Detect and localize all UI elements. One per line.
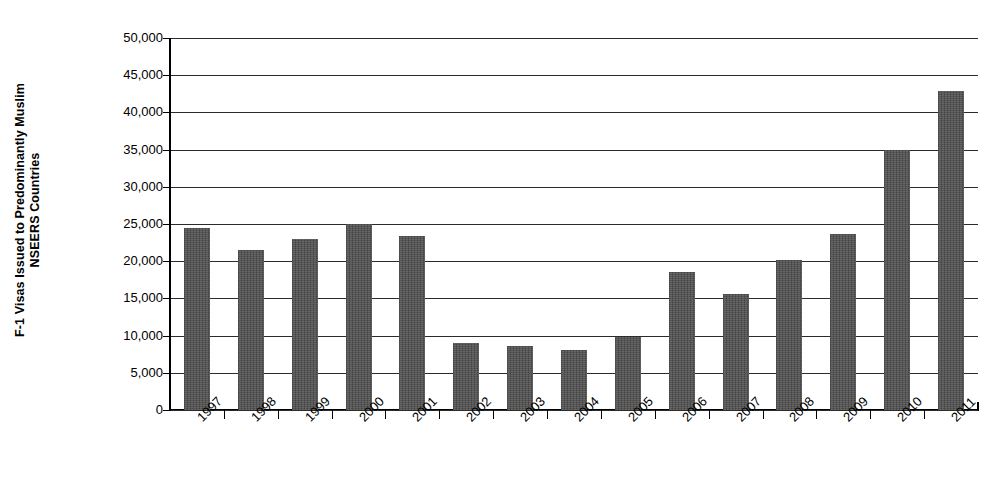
y-axis-title-line1: F-1 Visas Issued to Predominantly Muslim	[13, 83, 27, 337]
y-axis-tick-label: 20,000	[97, 254, 163, 267]
y-axis-tick-label: 50,000	[97, 31, 163, 44]
bar	[615, 337, 641, 410]
y-axis-tick-label: 0	[97, 403, 163, 416]
bar	[938, 91, 964, 410]
y-axis-tick-label: 30,000	[97, 180, 163, 193]
y-axis-tick	[163, 298, 171, 299]
y-axis-tick	[163, 150, 171, 151]
y-axis-tick	[163, 224, 171, 225]
bar	[184, 228, 210, 410]
y-axis-title-line2: NSEERS Countries	[28, 83, 43, 337]
bar	[238, 250, 264, 410]
y-axis-tick	[163, 112, 171, 113]
bar	[346, 224, 372, 410]
y-axis-tick	[163, 261, 171, 262]
x-axis-tick-labels: 1997199819992000200120022003200420052006…	[170, 414, 978, 482]
bar	[669, 272, 695, 410]
y-axis-tick-label: 10,000	[97, 329, 163, 342]
bar	[399, 236, 425, 410]
y-axis-tick-labels: 50,00045,00040,00035,00030,00025,00020,0…	[95, 38, 163, 410]
y-axis-tick-label: 45,000	[97, 68, 163, 81]
y-axis-tick	[163, 410, 171, 411]
gridline	[170, 38, 978, 39]
y-axis-tick-label: 40,000	[97, 105, 163, 118]
bar	[830, 234, 856, 410]
y-axis-title: F-1 Visas Issued to Predominantly Muslim…	[0, 0, 56, 420]
y-axis-tick-label: 15,000	[97, 291, 163, 304]
plot-area	[170, 38, 978, 410]
gridline	[170, 75, 978, 76]
y-axis-tick-label: 25,000	[97, 217, 163, 230]
y-axis-tick	[163, 187, 171, 188]
bar	[723, 294, 749, 410]
bar-chart: F-1 Visas Issued to Predominantly Muslim…	[0, 0, 1005, 482]
gridline	[170, 187, 978, 188]
gridline	[170, 224, 978, 225]
y-axis-tick	[163, 336, 171, 337]
y-axis-tick-label: 5,000	[97, 366, 163, 379]
y-axis-tick	[163, 38, 171, 39]
bar	[776, 260, 802, 410]
bar	[292, 239, 318, 410]
gridline	[170, 150, 978, 151]
y-axis-tick	[163, 373, 171, 374]
gridline	[170, 112, 978, 113]
y-axis-tick	[163, 75, 171, 76]
bar	[884, 150, 910, 410]
y-axis-tick-label: 35,000	[97, 143, 163, 156]
